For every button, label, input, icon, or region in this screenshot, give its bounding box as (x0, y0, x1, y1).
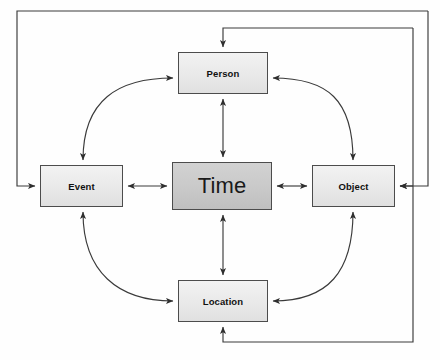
node-time[interactable]: Time (172, 162, 272, 210)
edge-outer-right-outer (400, 11, 428, 186)
node-time-label: Time (198, 173, 246, 199)
node-location[interactable]: Location (178, 280, 268, 322)
diagram-canvas: Person Event Time Object Location (0, 0, 440, 360)
node-location-label: Location (203, 296, 243, 307)
node-object[interactable]: Object (312, 165, 395, 207)
edge-outer-into-person (223, 28, 413, 47)
node-person-label: Person (207, 68, 240, 79)
node-person[interactable]: Person (178, 52, 268, 94)
node-event[interactable]: Event (40, 165, 123, 207)
edge-person-object (273, 78, 353, 160)
edge-event-person (83, 78, 173, 160)
edge-location-object (273, 212, 353, 301)
node-event-label: Event (68, 181, 94, 192)
edge-event-location (83, 212, 173, 301)
node-object-label: Object (338, 181, 368, 192)
